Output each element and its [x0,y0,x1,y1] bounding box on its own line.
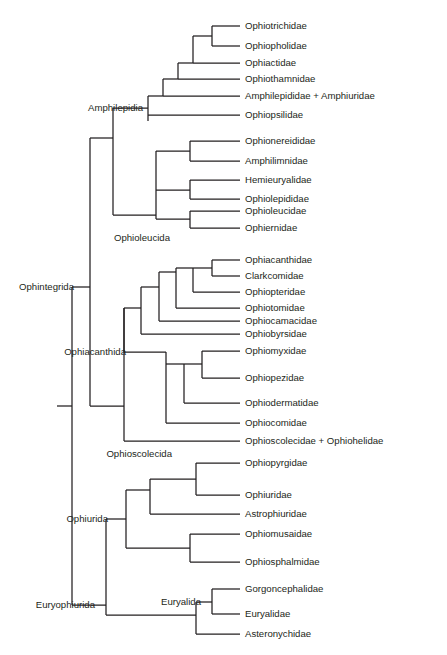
leaf-label-ophiopsilidae: Ophiopsilidae [245,109,303,120]
leaf-label-ophionereididae: Ophionereididae [245,135,315,146]
leaf-label-ophiomyxidae: Ophiomyxidae [245,345,306,356]
leaf-label-clarkcomidae: Clarkcomidae [245,270,304,281]
leaf-label-ophiothamnidae: Ophiothamnidae [245,73,315,84]
leaf-label-ophiocomidae: Ophiocomidae [245,417,307,428]
phylogenetic-tree-figure: OphiotrichidaeOphiopholidaeOphiactidaeOp… [0,0,447,655]
leaf-label-layer: OphiotrichidaeOphiopholidaeOphiactidaeOp… [245,20,383,639]
clade-label-ophintegrida: Ophintegrida [19,281,75,292]
tree-canvas: OphiotrichidaeOphiopholidaeOphiactidaeOp… [0,0,447,655]
leaf-label-ophiernidae: Ophiernidae [245,222,297,233]
leaf-label-amphilimnidae: Amphilimnidae [245,155,308,166]
clade-label-euryophiurida: Euryophiurida [36,599,96,610]
leaf-label-ophiacanthidae: Ophiacanthidae [245,254,312,265]
leaf-label-amphilepididae: Amphilepididae + Amphiuridae [245,90,375,101]
leaf-label-astrophiuridae: Astrophiuridae [245,508,307,519]
leaf-label-hemieuryalidae: Hemieuryalidae [245,174,312,185]
leaf-label-ophiactidae: Ophiactidae [245,57,296,68]
leaf-label-ophiopyrgidae: Ophiopyrgidae [245,457,307,468]
branch-layer [57,26,240,634]
clade-label-ophiurida: Ophiurida [66,513,108,524]
clade-label-ophiacanthida: Ophiacanthida [64,346,127,357]
leaf-label-asteronychidae: Asteronychidae [245,628,311,639]
leaf-label-ophiodermatidae: Ophiodermatidae [245,397,319,408]
leaf-label-ophiotomidae: Ophiotomidae [245,302,305,313]
leaf-label-ophiopezidae: Ophiopezidae [245,372,304,383]
leaf-label-ophiotrichidae: Ophiotrichidae [245,20,307,31]
leaf-label-ophiomusaidae: Ophiomusaidae [245,528,312,539]
clade-label-ophioscolecida: Ophioscolecida [106,448,172,459]
clade-label-layer: OphintegridaAmphilepidiaOphioleucidaOphi… [19,102,202,610]
clade-label-euryalida: Euryalida [161,596,202,607]
leaf-label-ophioscolecidae: Ophioscolecidae + Ophiohelidae [245,435,383,446]
leaf-label-ophioleucidae: Ophioleucidae [245,205,306,216]
leaf-label-ophiosphalmidae: Ophiosphalmidae [245,556,320,567]
leaf-label-ophiocamacidae: Ophiocamacidae [245,315,317,326]
leaf-label-ophiolepididae: Ophiolepididae [245,193,309,204]
leaf-label-ophiuridae: Ophiuridae [245,489,292,500]
leaf-label-gorgoncephalidae: Gorgoncephalidae [245,583,323,594]
clade-label-ophioleucida: Ophioleucida [114,232,171,243]
leaf-label-euryalidae: Euryalidae [245,608,290,619]
leaf-label-ophiopteridae: Ophiopteridae [245,286,305,297]
clade-label-amphilepidia: Amphilepidia [88,102,144,113]
leaf-label-ophiopholidae: Ophiopholidae [245,40,307,51]
leaf-label-ophiobyrsidae: Ophiobyrsidae [245,328,307,339]
